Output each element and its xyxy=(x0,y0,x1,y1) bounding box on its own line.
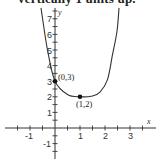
y-tick-label: -1 xyxy=(43,139,51,149)
y-tick-label: 2 xyxy=(47,92,52,102)
point-marker xyxy=(53,79,58,84)
y-tick-label: 3 xyxy=(47,77,52,87)
function-curve xyxy=(41,8,119,97)
function-graph: -11237654321-1xy (0,3)(1,2) xyxy=(0,0,160,161)
y-tick-label: 6 xyxy=(47,30,52,40)
x-tick-label: -1 xyxy=(25,131,33,141)
y-tick-label: 7 xyxy=(47,14,52,24)
x-tick-label: 2 xyxy=(103,131,108,141)
x-axis-label: x xyxy=(146,117,151,126)
labeled-points: (0,3)(1,2) xyxy=(53,72,93,109)
x-tick-label: 3 xyxy=(128,131,133,141)
y-tick-label: 1 xyxy=(47,108,52,118)
point-label: (0,3) xyxy=(58,72,74,82)
x-tick-label: 1 xyxy=(78,131,83,141)
point-label: (1,2) xyxy=(76,99,92,109)
y-axis-label: y xyxy=(57,8,62,17)
